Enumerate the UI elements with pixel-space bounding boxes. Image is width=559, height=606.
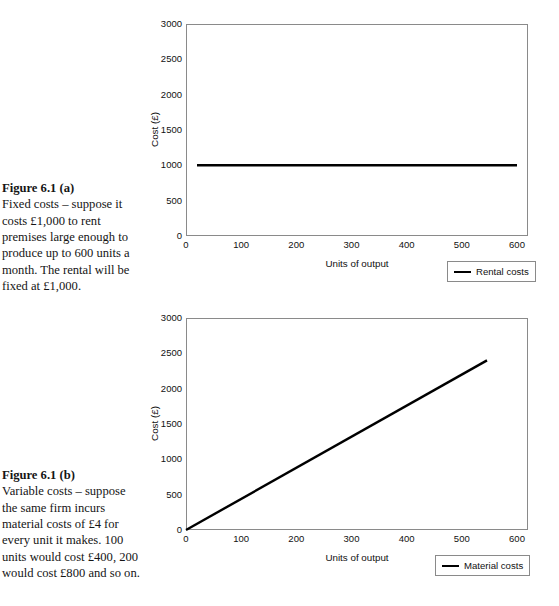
legend-label-rental-costs: Rental costs [476,266,529,277]
x-tick-label: 200 [276,240,316,250]
x-tick-label: 500 [442,240,482,250]
y-axis-ticks-fixed: 3000 2500 2000 1500 1000 500 0 [140,24,182,236]
x-tick-label: 300 [332,240,372,250]
y-axis-ticks-variable: 3000 2500 2000 1500 1000 500 0 [140,318,182,530]
legend-fixed-costs: Rental costs [447,261,536,282]
x-tick-label: 0 [166,534,206,544]
legend-line-swatch-icon [442,565,459,567]
x-tick-label: 100 [221,534,261,544]
y-tick-label: 2000 [142,384,182,394]
x-tick-label: 500 [442,534,482,544]
y-tick-label: 2000 [142,90,182,100]
x-tick-label: 400 [387,534,427,544]
y-tick-label: 1000 [142,161,182,171]
x-tick-label: 600 [497,534,537,544]
x-axis-ticks-fixed: 0 100 200 300 400 500 600 [186,240,528,254]
y-tick-label: 500 [142,196,182,206]
x-axis-ticks-variable: 0 100 200 300 400 500 600 [186,534,528,548]
y-tick-label: 1000 [142,455,182,465]
series-rental-costs [186,24,528,236]
legend-variable-costs: Material costs [435,555,530,576]
y-axis-title-variable: Cost (£) [149,394,160,454]
chart-fixed-costs: 3000 2500 2000 1500 1000 500 0 0 100 200… [0,0,559,300]
y-tick-label: 3000 [142,19,182,29]
x-tick-label: 200 [276,534,316,544]
x-tick-label: 600 [497,240,537,250]
legend-line-swatch-icon [454,271,471,273]
x-tick-label: 400 [387,240,427,250]
y-tick-label: 3000 [142,313,182,323]
y-tick-label: 2500 [142,349,182,359]
legend-label-material-costs: Material costs [464,560,523,571]
y-axis-title-fixed: Cost (£) [149,100,160,160]
x-tick-label: 300 [332,534,372,544]
y-tick-label: 2500 [142,55,182,65]
chart-variable-costs: 3000 2500 2000 1500 1000 500 0 0 100 200… [0,294,559,606]
x-tick-label: 100 [221,240,261,250]
y-tick-label: 500 [142,490,182,500]
x-tick-label: 0 [166,240,206,250]
series-material-costs [186,318,528,530]
